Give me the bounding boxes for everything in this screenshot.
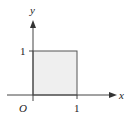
x-axis-arrow-icon	[109, 92, 117, 98]
y-axis-label: y	[29, 4, 35, 16]
x-axis-label: x	[118, 89, 124, 101]
y-axis-arrow-icon	[30, 20, 36, 28]
coordinate-diagram: y x O 1 1	[0, 0, 129, 120]
origin-label: O	[19, 102, 27, 114]
y-tick-label: 1	[20, 45, 26, 57]
shaded-unit-square	[33, 51, 77, 95]
x-tick-label: 1	[74, 102, 80, 114]
